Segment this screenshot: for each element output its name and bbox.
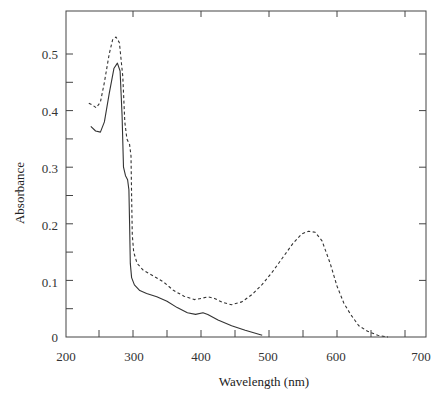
data-series xyxy=(89,37,388,337)
y-tick-label-0.4: 0.4 xyxy=(42,104,59,119)
axis-ticks xyxy=(66,11,426,337)
dashed-spectrum-line xyxy=(89,37,388,337)
y-axis-title: Absorbance xyxy=(12,162,27,224)
plot-frame xyxy=(66,11,426,337)
y-tick-label-0.1: 0.1 xyxy=(42,275,58,290)
y-tick-label-0.3: 0.3 xyxy=(42,161,58,176)
y-tick-label-0: 0 xyxy=(52,330,59,345)
solid-spectrum-line xyxy=(91,63,262,335)
x-tick-label-200: 200 xyxy=(56,349,76,364)
x-tick-label-700: 700 xyxy=(411,349,431,364)
x-tick-label-600: 600 xyxy=(326,349,346,364)
y-tick-label-0.5: 0.5 xyxy=(42,47,58,62)
x-tick-label-300: 300 xyxy=(124,349,144,364)
x-axis-title: Wavelength (nm) xyxy=(219,374,309,389)
x-tick-label-400: 400 xyxy=(191,349,211,364)
y-tick-label-0.2: 0.2 xyxy=(42,218,58,233)
x-tick-label-500: 500 xyxy=(258,349,278,364)
absorbance-chart: 200 300 400 500 600 700 0 0.1 0.2 0.3 0.… xyxy=(0,0,442,400)
